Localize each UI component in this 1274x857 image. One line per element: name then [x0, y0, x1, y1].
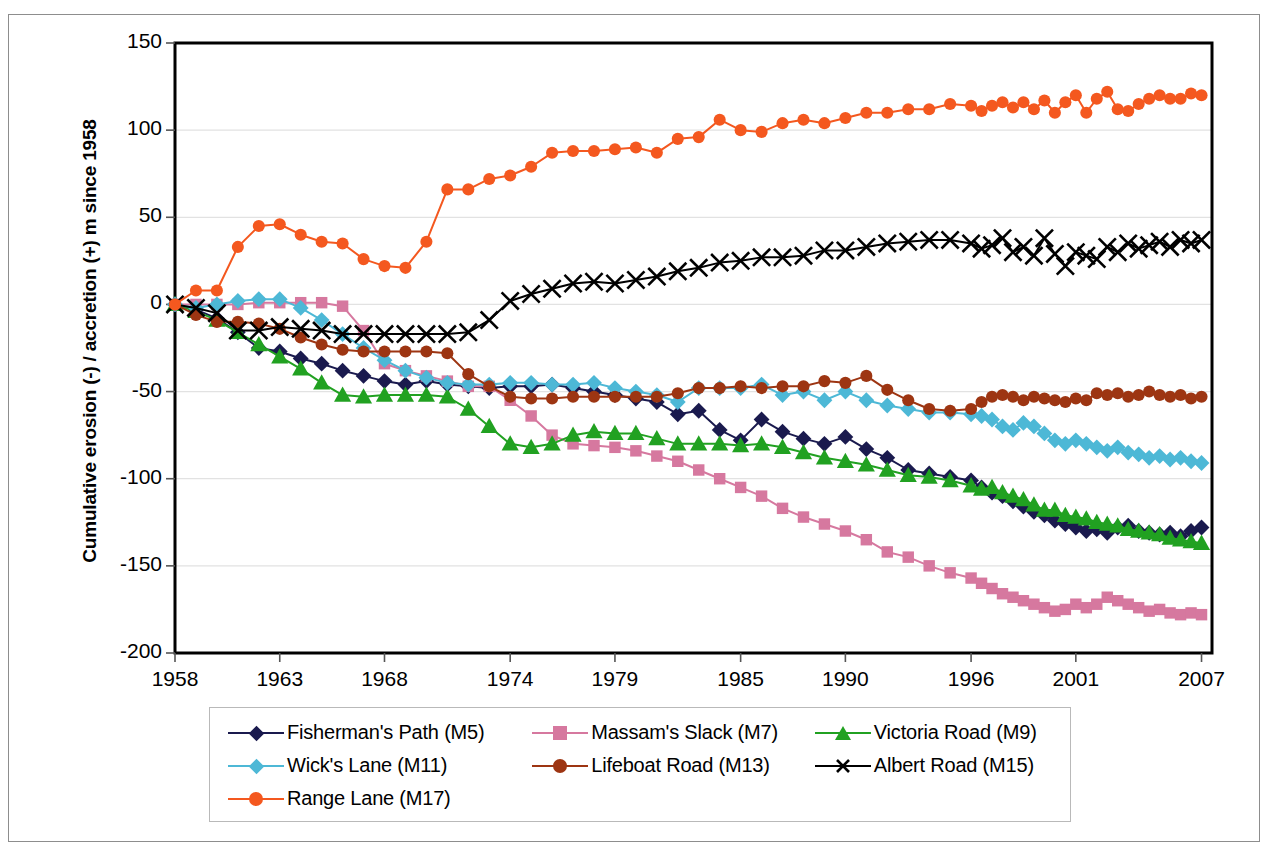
y-tick-label: 100 — [90, 116, 162, 140]
line-chart: Cumulative erosion (-) / accretion (+) m… — [0, 0, 1274, 857]
x-tick-label: 1958 — [130, 667, 220, 691]
legend-item[interactable]: Albert Road (M15) — [815, 749, 1070, 782]
y-axis-title: Cumulative erosion (-) / accretion (+) m… — [79, 61, 101, 621]
legend-label: Victoria Road (M9) — [874, 721, 1037, 744]
legend-row: Range Lane (M17) — [228, 782, 1070, 815]
legend-label: Massam's Slack (M7) — [591, 721, 778, 744]
x-tick-label: 1985 — [696, 667, 786, 691]
legend-marker-icon — [815, 723, 871, 743]
chart-page: Cumulative erosion (-) / accretion (+) m… — [0, 0, 1274, 857]
y-tick-label: -200 — [90, 639, 162, 663]
legend-item[interactable]: Massam's Slack (M7) — [532, 716, 815, 749]
legend-item[interactable]: Range Lane (M17) — [228, 782, 538, 815]
axis-ticks — [166, 43, 1202, 662]
legend-row: Wick's Lane (M11)Lifeboat Road (M13)Albe… — [228, 749, 1070, 782]
y-tick-label: -150 — [90, 552, 162, 576]
legend-label: Range Lane (M17) — [287, 787, 451, 810]
legend-marker-icon — [228, 756, 284, 776]
x-tick-label: 1996 — [926, 667, 1016, 691]
y-tick-label: 50 — [90, 203, 162, 227]
legend-item[interactable]: Wick's Lane (M11) — [228, 749, 532, 782]
x-tick-label: 2001 — [1031, 667, 1121, 691]
legend-item[interactable]: Fisherman's Path (M5) — [228, 716, 532, 749]
x-tick-label: 1979 — [570, 667, 660, 691]
y-tick-label: 0 — [90, 290, 162, 314]
gridlines — [175, 130, 1212, 566]
legend-marker-icon — [228, 723, 284, 743]
legend-marker-icon — [532, 756, 588, 776]
legend-marker-icon — [228, 789, 284, 809]
y-tick-label: -50 — [90, 378, 162, 402]
legend-item[interactable]: Victoria Road (M9) — [815, 716, 1070, 749]
x-tick-label: 1990 — [800, 667, 890, 691]
x-tick-label: 2007 — [1157, 667, 1247, 691]
legend-item[interactable]: Lifeboat Road (M13) — [532, 749, 815, 782]
series-7 — [169, 86, 1208, 311]
x-tick-label: 1968 — [339, 667, 429, 691]
legend-row: Fisherman's Path (M5)Massam's Slack (M7)… — [228, 716, 1070, 749]
x-tick-label: 1963 — [235, 667, 325, 691]
y-tick-label: 150 — [90, 29, 162, 53]
y-tick-label: -100 — [90, 465, 162, 489]
legend-marker-icon — [815, 756, 871, 776]
legend-marker-icon — [532, 723, 588, 743]
legend-label: Lifeboat Road (M13) — [591, 754, 770, 777]
legend-label: Wick's Lane (M11) — [287, 754, 447, 777]
chart-legend: Fisherman's Path (M5)Massam's Slack (M7)… — [209, 707, 1071, 822]
series-3 — [166, 296, 1210, 550]
x-tick-label: 1974 — [465, 667, 555, 691]
legend-label: Fisherman's Path (M5) — [287, 721, 484, 744]
series-layer — [166, 86, 1210, 621]
legend-label: Albert Road (M15) — [874, 754, 1034, 777]
